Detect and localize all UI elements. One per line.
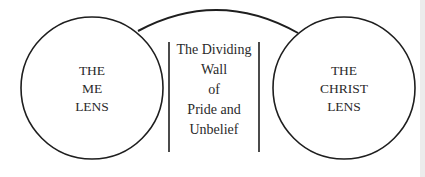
wall-line-1: The Dividing bbox=[172, 40, 256, 60]
wall-line-4: Pride and bbox=[172, 100, 256, 120]
me-lens-line-1: THE bbox=[52, 62, 132, 80]
me-lens-line-3: LENS bbox=[52, 98, 132, 116]
dividing-wall-label: The Dividing Wall of Pride and Unbelief bbox=[172, 40, 256, 140]
christ-lens-line-1: THE bbox=[299, 62, 389, 80]
christ-lens-label: THE CHRIST LENS bbox=[299, 62, 389, 116]
wall-line-5: Unbelief bbox=[172, 120, 256, 140]
christ-lens-line-2: CHRIST bbox=[299, 80, 389, 98]
me-lens-label: THE ME LENS bbox=[52, 62, 132, 116]
christ-lens-line-3: LENS bbox=[299, 98, 389, 116]
me-lens-line-2: ME bbox=[52, 80, 132, 98]
wall-line-2: Wall bbox=[172, 60, 256, 80]
connecting-arc bbox=[138, 10, 298, 33]
wall-line-3: of bbox=[172, 80, 256, 100]
